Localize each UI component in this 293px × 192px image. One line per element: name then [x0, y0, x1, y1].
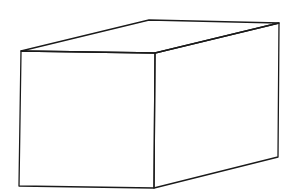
side-face — [154, 23, 279, 188]
box-diagram — [0, 0, 293, 192]
top-face — [21, 20, 279, 53]
front-face — [19, 51, 155, 188]
